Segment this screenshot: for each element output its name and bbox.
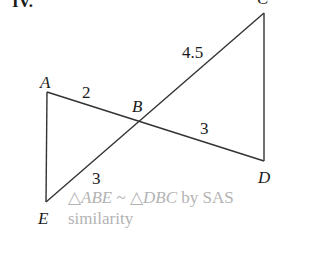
point-label-a: A	[40, 74, 50, 91]
similar-symbol: ~	[112, 188, 130, 207]
point-label-c: C	[257, 0, 268, 7]
point-label-b: B	[132, 98, 142, 115]
segment-EC	[46, 13, 264, 202]
triangle-abe: △ABE	[68, 188, 112, 207]
triangle-dbc: △DBC	[130, 188, 177, 207]
answer-line-1: △ABE ~ △DBC by SAS	[68, 188, 234, 208]
answer-line-2: similarity	[68, 209, 133, 229]
length-eb: 3	[92, 170, 101, 187]
reason: by SAS	[177, 188, 234, 207]
segment-AE	[46, 92, 47, 202]
length-ab: 2	[82, 84, 91, 101]
length-bc: 4.5	[182, 44, 203, 61]
point-label-e: E	[38, 210, 48, 227]
length-bd: 3	[200, 120, 209, 137]
segment-AD	[47, 92, 264, 161]
point-label-d: D	[258, 169, 270, 186]
